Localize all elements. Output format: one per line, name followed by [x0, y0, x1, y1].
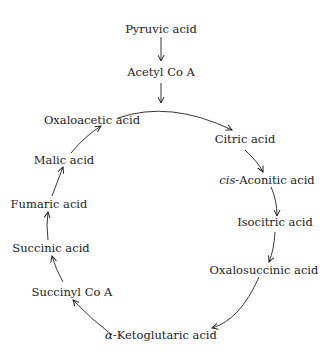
prefix-alpha: α — [105, 328, 113, 342]
label-aconitic: -Aconitic acid — [235, 173, 314, 187]
node-acetyl-co-a: Acetyl Co A — [127, 65, 195, 79]
arrow-succinyl-succinic — [52, 256, 63, 282]
node-oxalosuccinic-acid: Oxalosuccinic acid — [210, 263, 319, 277]
label-ketoglutaric: -Ketoglutaric acid — [113, 328, 217, 342]
arrow-oxalosuccinic-ketoglutaric — [212, 277, 259, 328]
node-alpha-ketoglutaric-acid: α-Ketoglutaric acid — [105, 328, 217, 342]
arrow-fumaric-malic — [52, 167, 63, 196]
arrow-malic-oxaloacetic — [71, 126, 101, 153]
node-oxaloacetic-acid: Oxaloacetic acid — [44, 113, 140, 127]
arrow-aconitic-isocitric — [271, 187, 277, 216]
node-pyruvic-acid: Pyruvic acid — [125, 22, 197, 36]
node-isocitric-acid: Isocitric acid — [237, 215, 313, 229]
citric-acid-cycle-diagram: Pyruvic acid Acetyl Co A Oxaloacetic aci… — [0, 0, 325, 356]
node-fumaric-acid: Fumaric acid — [11, 197, 88, 211]
node-succinyl-co-a: Succinyl Co A — [32, 285, 113, 299]
node-malic-acid: Malic acid — [34, 153, 94, 167]
node-citric-acid: Citric acid — [215, 132, 276, 146]
node-succinic-acid: Succinic acid — [12, 241, 89, 255]
arrow-succinic-fumaric — [47, 212, 48, 240]
arrow-citric-aconitic — [245, 150, 263, 172]
arrow-isocitric-oxalosuccinic — [269, 232, 275, 262]
prefix-cis: cis — [219, 173, 235, 187]
node-cis-aconitic-acid: cis-Aconitic acid — [219, 173, 314, 187]
